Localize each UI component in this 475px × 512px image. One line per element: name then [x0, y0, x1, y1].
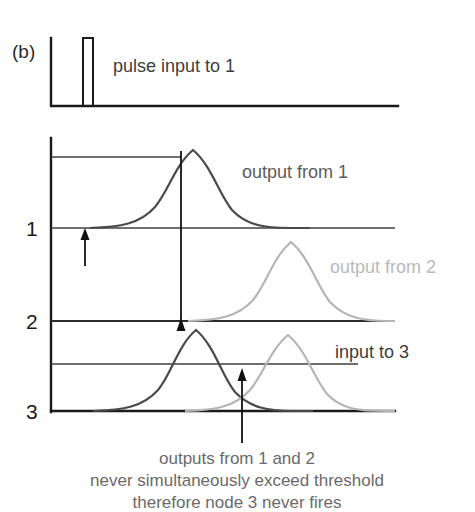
crossing-point-pointer-head [238, 368, 247, 381]
curve-output-from-2 [188, 242, 395, 321]
output-from-2-label: output from 2 [330, 257, 436, 277]
figure-svg: (b) pulse input to 1 1 2 3 [0, 0, 475, 512]
pulse-arrival-arrow-head [81, 228, 90, 240]
caption-line-1: outputs from 1 and 2 [159, 449, 315, 468]
output-from-1-label: output from 1 [242, 162, 348, 182]
caption-line-3: therefore node 3 never fires [133, 493, 342, 512]
node1-peak-dropline [177, 151, 186, 331]
axis-label-2: 2 [26, 310, 38, 333]
caption-line-2: never simultaneously exceed threshold [90, 471, 384, 490]
node-outputs-panel: 1 2 3 [26, 138, 436, 443]
node1-peak-dropline-head [177, 318, 186, 331]
input-to-3-label: input to 3 [335, 342, 409, 362]
axis-label-1: 1 [26, 217, 38, 240]
figure-panel-b: (b) pulse input to 1 1 2 3 [0, 0, 475, 512]
pulse-arrival-arrow [81, 228, 90, 266]
figure-caption: outputs from 1 and 2 never simultaneousl… [90, 449, 384, 512]
pulse-rectangle [83, 38, 93, 106]
pulse-input-panel: pulse input to 1 [51, 38, 398, 106]
panel-label: (b) [12, 41, 35, 62]
pulse-input-label: pulse input to 1 [113, 56, 235, 76]
axis-label-3: 3 [26, 400, 38, 423]
crossing-point-pointer [238, 368, 247, 443]
